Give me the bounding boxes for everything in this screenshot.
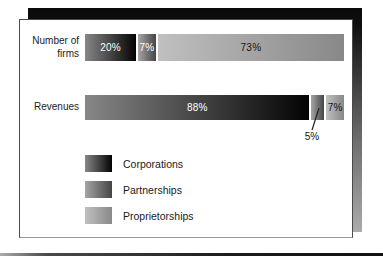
legend-item: Proprietorships — [85, 207, 194, 224]
bar-segment-proprietorships: 7% — [326, 95, 344, 120]
figure-canvas: { "chart_data": { "type": "bar", "orient… — [0, 0, 383, 260]
chart-panel: Number of firms20%7%73%Revenues88%7% 5% … — [19, 19, 353, 238]
legend-label: Partnerships — [123, 184, 182, 196]
bar-segment-corporations: 20% — [85, 34, 136, 61]
chart-row: Revenues88%7% — [20, 95, 352, 120]
page-divider-rule — [0, 253, 383, 256]
callout-line — [305, 108, 327, 132]
category-label: Number of firms — [20, 35, 85, 60]
legend-item: Partnerships — [85, 181, 194, 198]
category-label: Revenues — [20, 101, 85, 114]
bar-segment-proprietorships: 73% — [158, 34, 344, 61]
chart-row: Number of firms20%7%73% — [20, 34, 352, 61]
bar-segment-partnerships: 7% — [138, 34, 156, 61]
legend-item: Corporations — [85, 155, 194, 172]
legend-label: Corporations — [123, 158, 183, 170]
bar-segment-corporations: 88% — [85, 95, 309, 120]
legend-swatch-proprietorships — [85, 207, 112, 224]
legend-swatch-corporations — [85, 155, 112, 172]
legend-label: Proprietorships — [123, 210, 194, 222]
legend-swatch-partnerships — [85, 181, 112, 198]
stacked-bar: 20%7%73% — [85, 34, 344, 61]
legend: CorporationsPartnershipsProprietorships — [85, 155, 194, 224]
callout-value-label: 5% — [297, 131, 327, 142]
